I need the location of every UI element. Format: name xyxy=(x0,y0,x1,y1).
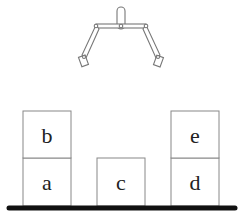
block-e-label: e xyxy=(190,123,200,148)
block-b-label: b xyxy=(42,123,53,148)
gripper-right-arm xyxy=(143,25,160,58)
gripper-left-arm xyxy=(82,25,99,58)
pivot-right xyxy=(144,24,148,28)
pivot-right-finger xyxy=(157,56,160,59)
block-d-label: d xyxy=(190,170,201,195)
blocks-world-diagram: a b c d e xyxy=(0,0,245,220)
robot-gripper xyxy=(78,7,163,67)
pivot-left xyxy=(94,24,98,28)
pivot-left-finger xyxy=(83,56,86,59)
block-c-label: c xyxy=(116,170,126,195)
pivot-center xyxy=(119,24,123,28)
block-a-label: a xyxy=(42,170,52,195)
